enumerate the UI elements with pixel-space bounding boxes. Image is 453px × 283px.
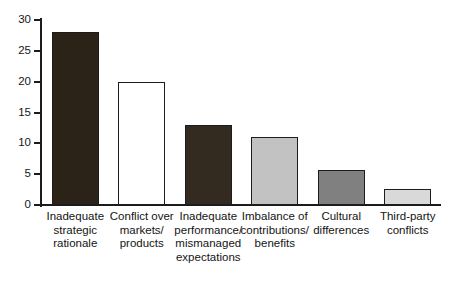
y-axis-tick-label: 30 xyxy=(4,14,31,26)
y-axis-tick-mark xyxy=(34,173,41,175)
y-axis-tick-label: 5 xyxy=(4,168,31,180)
y-axis-tick-label: 15 xyxy=(4,107,31,119)
bar xyxy=(384,189,431,205)
y-axis-tick-label: 10 xyxy=(4,137,31,149)
bar xyxy=(251,137,298,205)
y-axis-tick-mark xyxy=(34,112,41,114)
y-axis-tick-label: 0 xyxy=(4,199,31,211)
plot-area xyxy=(42,18,441,205)
y-axis-tick-mark xyxy=(34,19,41,21)
bar xyxy=(52,32,99,205)
y-axis-tick-mark xyxy=(34,50,41,52)
bar xyxy=(185,125,232,205)
bar xyxy=(318,170,365,205)
y-axis-tick-mark xyxy=(34,142,41,144)
bar xyxy=(118,82,165,205)
y-axis-tick-label: 20 xyxy=(4,76,31,88)
y-axis-tick-mark xyxy=(34,81,41,83)
category-axis-labels: Inadequate strategic rationaleConflict o… xyxy=(42,210,441,283)
y-axis-tick-label: 25 xyxy=(4,45,31,57)
category-label: Third-party conflicts xyxy=(369,210,448,237)
y-axis-tick-mark xyxy=(34,204,41,206)
bar-chart: 302520151050 Inadequate strategic ration… xyxy=(0,0,453,283)
